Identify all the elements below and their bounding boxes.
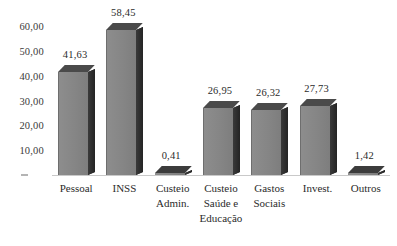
bar-group: 41,63 (58, 14, 88, 175)
bar (106, 30, 136, 175)
bar-front-face (106, 30, 137, 175)
category-label: Outros (342, 181, 390, 196)
category-label-line: Admin. (149, 196, 197, 211)
category-label-line: INSS (100, 181, 148, 196)
y-axis-zero-marker (21, 175, 28, 176)
category-label-line: Pessoal (52, 181, 100, 196)
bar-front-face (300, 106, 331, 175)
category-label: Pessoal (52, 181, 100, 196)
bar-value-label: 27,73 (304, 83, 329, 94)
bar-chart: 10,0020,0030,0040,0050,0060,00 41,6358,4… (0, 0, 397, 246)
bar-value-label: 26,95 (208, 85, 233, 96)
bar-front-face (203, 108, 234, 175)
category-label-line: Invest. (293, 181, 341, 196)
plot-area: 41,6358,450,4126,9526,3227,731,42 (52, 14, 390, 175)
y-axis-tick-label: 60,00 (19, 21, 44, 32)
category-label: Invest. (293, 181, 341, 196)
bar (251, 110, 281, 175)
y-axis-tick-label: 40,00 (19, 70, 44, 81)
category-axis-labels: PessoalINSSCusteioAdmin.CusteioSaúde eEd… (52, 181, 390, 245)
y-axis-tick-label: 20,00 (19, 120, 44, 131)
category-label: GastosSociais (245, 181, 293, 211)
bar-value-label: 1,42 (355, 150, 374, 161)
bar-group: 26,32 (251, 14, 281, 175)
category-label-line: Sociais (245, 196, 293, 211)
y-axis: 10,0020,0030,0040,0050,0060,00 (0, 14, 50, 182)
bar-value-label: 26,32 (256, 87, 281, 98)
bar-top-face (155, 166, 192, 173)
bar (203, 108, 233, 175)
bar-side-face (233, 105, 240, 175)
bar (58, 72, 88, 175)
category-label-line: Saúde e (197, 196, 245, 211)
bar (348, 171, 378, 175)
bar-side-face (88, 69, 95, 175)
bar-side-face (136, 27, 143, 175)
bar (155, 174, 185, 175)
category-label-line: Educação (197, 211, 245, 226)
bar-group: 58,45 (106, 14, 136, 175)
bar-group: 1,42 (348, 14, 378, 175)
bar-value-label: 41,63 (63, 49, 88, 60)
bar-front-face (348, 173, 378, 175)
bar-side-face (281, 107, 288, 175)
y-axis-tick-label: 10,00 (19, 145, 44, 156)
x-axis-baseline (52, 175, 390, 176)
bar-group: 27,73 (300, 14, 330, 175)
bar (300, 106, 330, 175)
category-label-line: Outros (342, 181, 390, 196)
bar-value-label: 58,45 (111, 7, 136, 18)
bar-group: 26,95 (203, 14, 233, 175)
bar-front-face (58, 72, 89, 175)
category-label-line: Custeio (197, 181, 245, 196)
bar-front-face (155, 173, 185, 175)
category-label: INSS (100, 181, 148, 196)
category-label-line: Gastos (245, 181, 293, 196)
bar-side-face (330, 103, 337, 175)
bar-front-face (251, 110, 282, 175)
category-label: CusteioAdmin. (149, 181, 197, 211)
y-axis-tick-label: 30,00 (19, 95, 44, 106)
y-axis-tick-label: 50,00 (19, 46, 44, 57)
bar-group: 0,41 (155, 14, 185, 175)
category-label-line: Custeio (149, 181, 197, 196)
bar-value-label: 0,41 (162, 150, 181, 161)
category-label: CusteioSaúde eEducação (197, 181, 245, 226)
